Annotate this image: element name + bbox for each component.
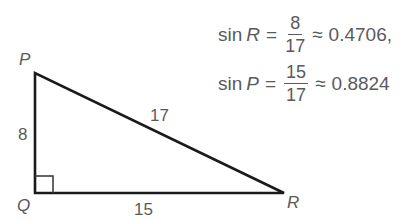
equals-sign: = (265, 73, 276, 95)
denominator: 17 (285, 35, 305, 55)
denominator: 17 (286, 84, 306, 104)
fraction: 15 17 (284, 63, 308, 104)
value: 0.4706, (329, 24, 392, 46)
vertex-q-label: Q (17, 196, 30, 216)
vertex-p-label: P (19, 50, 30, 70)
approx-sign: ≈ (312, 24, 322, 46)
side-qr-label: 15 (134, 200, 153, 220)
var-label: P (246, 73, 259, 95)
func-label: sin (218, 73, 242, 95)
numerator: 8 (288, 14, 302, 35)
vertex-r-label: R (287, 193, 299, 213)
side-pq-label: 8 (18, 125, 27, 145)
equation-sin-r: sin R = 8 17 ≈ 0.4706, (218, 14, 392, 55)
approx-sign: ≈ (315, 73, 325, 95)
var-label: R (246, 24, 260, 46)
right-angle-marker (35, 176, 53, 193)
numerator: 15 (284, 63, 308, 84)
fraction: 8 17 (285, 14, 305, 55)
equals-sign: = (266, 24, 277, 46)
func-label: sin (218, 24, 242, 46)
equation-sin-p: sin P = 15 17 ≈ 0.8824 (218, 63, 390, 104)
side-pr-label: 17 (150, 106, 169, 126)
value: 0.8824 (332, 73, 390, 95)
